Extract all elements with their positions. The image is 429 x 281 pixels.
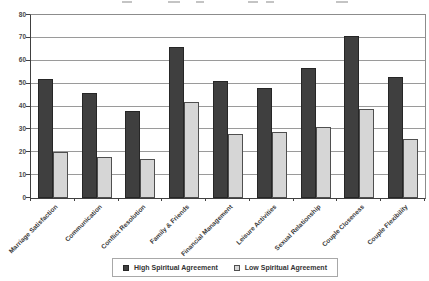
bar-low xyxy=(272,132,287,198)
y-axis-tick xyxy=(26,37,30,38)
y-axis-label: 20 xyxy=(0,148,26,155)
bar-low xyxy=(228,134,243,198)
y-axis-label: 30 xyxy=(0,125,26,132)
bar-high xyxy=(257,88,272,198)
cropped-title xyxy=(0,0,429,4)
bar-low xyxy=(97,157,112,198)
bar-low xyxy=(140,159,155,198)
cropped-title-fragment xyxy=(248,1,258,3)
cropped-title-fragment xyxy=(168,1,180,3)
legend-swatch-low-icon xyxy=(234,265,240,271)
x-axis-tick xyxy=(293,198,294,201)
category-label: Family & Friends xyxy=(148,203,190,245)
y-axis-tick xyxy=(26,174,30,175)
category-label: Couple Closeness xyxy=(320,203,365,248)
bar-high xyxy=(344,36,359,198)
x-axis-tick xyxy=(205,198,206,201)
bar-group xyxy=(31,15,75,198)
x-axis-tick xyxy=(30,198,31,201)
category-label: Marriage Satisfaction xyxy=(7,203,58,254)
y-axis-tick xyxy=(26,106,30,107)
bar-group xyxy=(337,15,381,198)
y-axis-label: 0 xyxy=(0,194,26,201)
cropped-title-fragment xyxy=(122,1,132,3)
bar-low xyxy=(184,102,199,198)
y-axis-tick xyxy=(26,128,30,129)
bar-low xyxy=(53,152,68,198)
bar-low xyxy=(316,127,331,198)
y-axis-label: 10 xyxy=(0,171,26,178)
cropped-title-fragment xyxy=(266,1,274,3)
bar-group xyxy=(250,15,294,198)
y-axis-tick xyxy=(26,14,30,15)
x-axis-tick xyxy=(336,198,337,201)
x-axis-tick xyxy=(74,198,75,201)
y-axis-label: 50 xyxy=(0,79,26,86)
y-axis-label: 70 xyxy=(0,33,26,40)
category-label: Communication xyxy=(63,203,103,243)
x-axis-tick xyxy=(249,198,250,201)
bar-high xyxy=(388,77,403,198)
category-label: Leisure Activities xyxy=(235,203,278,246)
bar-group xyxy=(119,15,163,198)
y-axis-tick xyxy=(26,60,30,61)
category-label: Financial Management xyxy=(180,203,234,257)
y-axis-tick xyxy=(26,83,30,84)
category-label: Couple Flexibility xyxy=(366,203,409,246)
y-axis-tick xyxy=(26,151,30,152)
x-axis-tick xyxy=(161,198,162,201)
bar-high xyxy=(213,81,228,198)
bar-low xyxy=(403,139,418,198)
bar-group xyxy=(294,15,338,198)
bar-group xyxy=(75,15,119,198)
cropped-title-fragment xyxy=(336,1,348,3)
bar-high xyxy=(169,47,184,198)
bar-low xyxy=(359,109,374,198)
legend-label-low: Low Spiritual Agreement xyxy=(245,264,327,271)
cropped-title-fragment xyxy=(196,1,204,3)
y-axis-label: 40 xyxy=(0,102,26,109)
bar-high xyxy=(125,111,140,198)
grouped-bar-chart: 01020304050607080 Marriage SatisfactionC… xyxy=(0,0,429,281)
legend-item-high: High Spiritual Agreement xyxy=(123,264,218,271)
bar-high xyxy=(38,79,53,198)
category-label: Sexual Relationship xyxy=(273,203,322,252)
y-axis-label: 80 xyxy=(0,11,26,18)
bar-group xyxy=(381,15,425,198)
y-axis-label: 60 xyxy=(0,56,26,63)
legend: High Spiritual Agreement Low Spiritual A… xyxy=(112,258,338,277)
x-axis-tick xyxy=(424,198,425,201)
plot-area xyxy=(30,14,426,199)
x-axis-tick xyxy=(118,198,119,201)
bar-group xyxy=(206,15,250,198)
bars-container xyxy=(31,15,425,198)
bar-high xyxy=(82,93,97,198)
legend-swatch-high-icon xyxy=(123,265,129,271)
legend-item-low: Low Spiritual Agreement xyxy=(234,264,327,271)
x-axis-tick xyxy=(380,198,381,201)
category-label: Conflict Resolution xyxy=(99,203,146,250)
bar-group xyxy=(162,15,206,198)
bar-high xyxy=(301,68,316,198)
legend-label-high: High Spiritual Agreement xyxy=(134,264,218,271)
